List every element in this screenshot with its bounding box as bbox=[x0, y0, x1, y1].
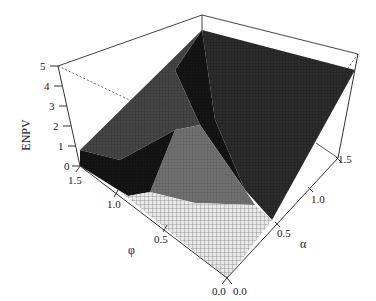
enpv-3d-surface-plot: 5 4 3 2 1 0 ENPV 1.5 1.0 0.5 0.0 φ 0.0 0… bbox=[0, 0, 376, 301]
phi-tick-1.0: 1.0 bbox=[107, 198, 121, 210]
alpha-tick-1.0: 1.0 bbox=[311, 193, 325, 205]
z-tick-5: 5 bbox=[40, 60, 46, 72]
z-tick-2: 2 bbox=[53, 120, 59, 132]
alpha-tick-0.5: 0.5 bbox=[277, 227, 291, 239]
z-tick-1: 1 bbox=[58, 140, 64, 152]
z-axis: 5 4 3 2 1 0 ENPV bbox=[19, 60, 80, 172]
z-axis-label: ENPV bbox=[19, 119, 33, 151]
z-tick-4: 4 bbox=[44, 80, 50, 92]
surface bbox=[80, 30, 355, 278]
phi-tick-0.5: 0.5 bbox=[154, 233, 168, 245]
alpha-axis-label: α bbox=[300, 237, 307, 251]
alpha-tick-0.0: 0.0 bbox=[233, 285, 247, 297]
phi-axis-label: φ bbox=[128, 243, 135, 257]
alpha-tick-1.5: 1.5 bbox=[338, 153, 352, 165]
z-tick-0: 0 bbox=[64, 160, 70, 172]
phi-tick-1.5: 1.5 bbox=[68, 174, 82, 186]
z-tick-3: 3 bbox=[49, 100, 55, 112]
phi-tick-0.0: 0.0 bbox=[212, 285, 226, 297]
